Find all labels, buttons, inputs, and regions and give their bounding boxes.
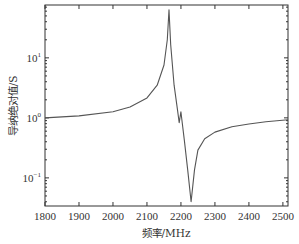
y-axis-label: 导纳绝对值/S — [7, 76, 19, 137]
plot-border — [45, 5, 288, 206]
x-tick-label: 2100 — [136, 210, 159, 222]
x-tick-label: 2300 — [204, 210, 227, 222]
x-tick-label: 2000 — [102, 210, 125, 222]
x-tick-label: 2200 — [170, 210, 193, 222]
admittance-chart: 18001900200021002200230024002500 10−1100… — [0, 0, 299, 244]
x-tick-label: 2400 — [238, 210, 261, 222]
plot-frame — [45, 5, 288, 206]
y-axis-ticks: 10−1100101 — [23, 7, 288, 202]
x-tick-label: 2500 — [272, 210, 295, 222]
x-axis-label: 频率/MHz — [142, 227, 191, 239]
y-tick-label: 101 — [27, 51, 42, 64]
x-tick-label: 1900 — [68, 210, 91, 222]
data-series — [45, 10, 288, 202]
x-axis-ticks: 18001900200021002200230024002500 — [34, 5, 294, 222]
admittance-curve — [45, 10, 288, 202]
y-tick-label: 10−1 — [23, 171, 42, 184]
x-tick-label: 1800 — [34, 210, 57, 222]
y-tick-label: 100 — [27, 111, 42, 124]
